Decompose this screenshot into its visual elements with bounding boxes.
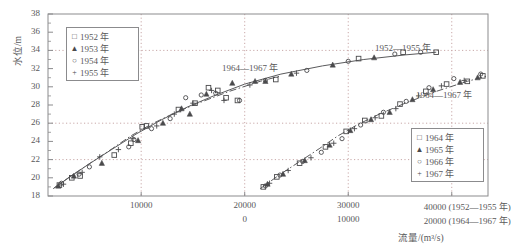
data-point <box>149 127 153 131</box>
data-point <box>199 93 203 97</box>
data-point <box>461 78 466 83</box>
y-tick-label: 18 <box>18 190 40 200</box>
data-point <box>410 97 415 102</box>
legend-entry-label: 1955 年 <box>79 66 109 79</box>
legend-marker-icon: ▲ <box>415 145 424 154</box>
legend-marker-icon: + <box>415 169 424 178</box>
y-tick-label: 22 <box>18 154 40 164</box>
data-point <box>404 99 408 103</box>
y-tick-label: 30 <box>18 81 40 91</box>
data-point <box>331 141 336 146</box>
y-tick-label: 38 <box>18 8 40 18</box>
data-point <box>340 137 344 141</box>
legend-1952-1955[interactable]: □1952 年▲1953 年○1954 年+1955 年 <box>66 27 139 81</box>
curve-secondary <box>53 76 281 189</box>
data-point <box>230 80 235 85</box>
x-tick-label-secondary: 20000 (1964—1967 年) <box>424 214 515 227</box>
legend-marker-icon: ○ <box>70 56 79 65</box>
legend-entry[interactable]: ▲1953 年 <box>70 42 134 54</box>
legend-marker-icon: ○ <box>415 157 424 166</box>
data-point <box>221 98 226 103</box>
legend-1964-1967[interactable]: □1964 年▲1965 年○1966 年+1967 年 <box>411 128 484 182</box>
legend-entry[interactable]: □1952 年 <box>70 30 134 42</box>
data-point <box>204 91 209 96</box>
data-point <box>99 160 104 165</box>
y-tick-label: 24 <box>18 135 40 145</box>
y-tick-label: 36 <box>18 26 40 36</box>
y-tick-label: 34 <box>18 44 40 54</box>
data-point <box>371 55 376 60</box>
data-point <box>224 95 229 100</box>
data-point <box>372 115 377 120</box>
legend-marker-icon: + <box>70 68 79 77</box>
legend-entry-label: 1967 年 <box>424 167 454 180</box>
data-point <box>452 77 456 81</box>
data-point <box>285 168 290 173</box>
x-tick-label-primary: 10000 <box>111 200 171 210</box>
legend-marker-icon: ▲ <box>70 44 79 53</box>
legend-entry[interactable]: ○1954 年 <box>70 54 134 66</box>
data-point <box>112 153 117 158</box>
legend-marker-icon: □ <box>70 32 79 41</box>
legend-entry[interactable]: +1955 年 <box>70 66 134 78</box>
data-point <box>206 85 211 90</box>
x-tick-label-primary: 30000 <box>318 200 378 210</box>
y-tick-label: 20 <box>18 172 40 182</box>
legend-entry[interactable]: ▲1965 年 <box>415 143 479 155</box>
data-point <box>319 150 323 154</box>
legend-marker-icon: □ <box>415 133 424 142</box>
x-tick-label-primary: 20000 <box>215 200 275 210</box>
x-tick-label-secondary: 0 <box>215 214 275 224</box>
legend-entry[interactable]: +1967 年 <box>415 167 479 179</box>
data-point <box>444 82 449 87</box>
y-tick-label: 26 <box>18 117 40 127</box>
x-tick-label-primary: 40000 (1952—1955 年) <box>424 200 515 213</box>
data-point <box>352 126 357 131</box>
legend-entry[interactable]: □1964 年 <box>415 131 479 143</box>
annotation-1952-1955: 1952—1955 年 <box>375 41 431 54</box>
y-tick-label: 28 <box>18 99 40 109</box>
data-point <box>168 117 172 121</box>
x-tick-label-secondary: 10000 <box>318 214 378 224</box>
data-point <box>160 120 165 125</box>
annotation-1964-1967-right: 1964—1967 年 <box>416 88 472 101</box>
data-point <box>87 165 91 169</box>
data-point <box>184 96 188 100</box>
legend-entry[interactable]: ○1966 年 <box>415 155 479 167</box>
y-tick-label: 32 <box>18 63 40 73</box>
data-point <box>359 123 363 127</box>
data-point <box>187 111 192 116</box>
x-axis-title: 流量/(m³/s) <box>398 230 444 244</box>
data-point <box>116 147 121 152</box>
data-point <box>179 106 184 111</box>
annotation-1964-1967-mid: 1964—1967 年 <box>222 61 278 74</box>
